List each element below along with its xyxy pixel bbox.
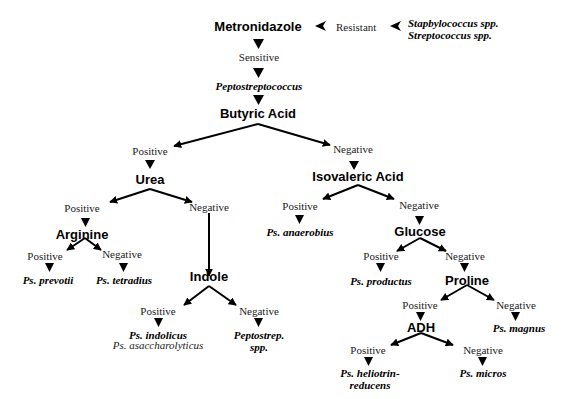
node-urea: Urea	[136, 173, 165, 186]
arrow-neg-tetradius	[119, 263, 128, 272]
node-peptostreptococcus: Peptostreptococcus	[216, 80, 303, 92]
line-iso-neg	[358, 185, 394, 199]
label-proline-positive: Positive	[402, 300, 437, 311]
species-ps-tetradius: Ps. tetradius	[96, 274, 152, 286]
node-proline: Proline	[445, 274, 489, 287]
species-ps-heliotrin: Ps. heliotrin-	[340, 367, 399, 379]
node-isovaleric-acid: Isovaleric Acid	[312, 170, 403, 183]
species-ps-prevotii: Ps. prevotii	[23, 274, 74, 286]
arrow-metro-sensitive	[253, 39, 264, 49]
label-isovaleric-negative: Negative	[399, 200, 439, 211]
line-urea-neg	[150, 189, 192, 202]
arrow-to-resistant	[315, 21, 326, 31]
result-staphylococcus: Stapbylococcus spp.	[408, 17, 498, 29]
arrow-sensitive-pepto	[253, 68, 264, 78]
label-arginine-positive: Positive	[27, 251, 62, 262]
label-indole-positive: Positive	[140, 306, 175, 317]
line-glucose-pos	[397, 238, 420, 251]
arrow-pos-heliotrin	[364, 357, 373, 366]
species-ps-magnus: Ps. magnus	[493, 322, 546, 334]
node-adh: ADH	[407, 321, 435, 334]
label-resistant: Resistant	[336, 22, 376, 33]
arrow-pos-productus	[376, 263, 385, 272]
arrow-pos-urea	[145, 160, 155, 169]
arrow-pos-indolicus	[154, 318, 163, 327]
label-butyric-positive: Positive	[132, 146, 167, 157]
arrow-neg-micros	[478, 357, 487, 366]
label-urea-negative: Negative	[189, 202, 229, 213]
species-peptostrep-spp: spp.	[250, 341, 268, 353]
arrow-pepto-butyric	[253, 95, 264, 105]
label-urea-positive: Positive	[64, 203, 99, 214]
line-indole-pos	[184, 286, 209, 305]
arrow-pos-arginine	[81, 218, 90, 227]
line-glucose-neg	[420, 238, 446, 251]
species-ps-anaerobius: Ps. anaerobius	[266, 226, 333, 238]
arrow-pos-anaerobius	[295, 215, 304, 224]
line-butyric-neg	[258, 124, 330, 145]
flowchart: Metronidazole Resistant Stapbylococcus s…	[0, 0, 563, 399]
arrow-neg-proline	[460, 263, 469, 272]
label-arginine-negative: Negative	[102, 249, 142, 260]
result-streptococcus: Streptococcus spp.	[408, 29, 492, 41]
species-ps-heliotrin-reducens: reducens	[350, 379, 391, 391]
label-adh-positive: Positive	[350, 345, 385, 356]
line-indole-neg	[209, 286, 236, 305]
arrow-pos-prevotii	[45, 263, 54, 272]
label-butyric-negative: Negative	[333, 144, 373, 155]
arrow-neg-peptostrep	[254, 318, 263, 327]
label-sensitive: Sensitive	[239, 52, 279, 63]
line-iso-pos	[323, 185, 358, 199]
label-isovaleric-positive: Positive	[282, 201, 317, 212]
node-glucose: Glucose	[394, 225, 445, 238]
species-ps-asaccharolyticus: Ps. asaccharolyticus	[113, 340, 204, 351]
label-proline-negative: Negative	[496, 300, 536, 311]
species-ps-micros: Ps. micros	[459, 367, 506, 379]
arrow-neg-magnus	[511, 312, 520, 321]
node-arginine: Arginine	[56, 228, 109, 241]
line-butyric-pos	[174, 124, 258, 146]
label-glucose-positive: Positive	[363, 251, 398, 262]
node-metronidazole: Metronidazole	[214, 20, 301, 33]
label-adh-negative: Negative	[463, 345, 503, 356]
arrow-to-resistant-result	[390, 21, 401, 31]
node-indole: Indole	[190, 270, 228, 283]
species-peptostrep: Peptostrep.	[234, 329, 284, 341]
node-butyric-acid: Butyric Acid	[220, 107, 296, 120]
line-urea-pos	[110, 189, 150, 202]
species-ps-productus: Ps. productus	[350, 275, 412, 287]
label-indole-negative: Negative	[239, 306, 279, 317]
label-glucose-negative: Negative	[445, 251, 485, 262]
